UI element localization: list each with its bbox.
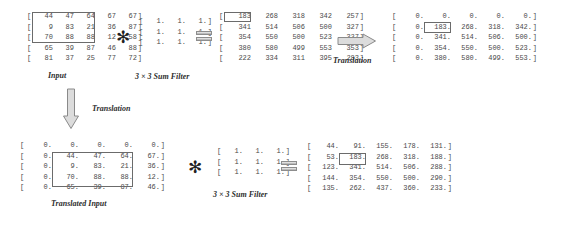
matrix-cell: 506 <box>278 22 305 33</box>
caption-translated-input: Translated Input <box>51 199 107 208</box>
matrix-cell: 550. <box>366 173 393 184</box>
matrix-row: [0.44.47.64.67.] <box>20 151 165 162</box>
matrix-cell: 37 <box>53 53 74 64</box>
matrix-cell: 523. <box>505 43 532 54</box>
bracket-close: ] <box>137 53 142 64</box>
equals-bar-upper-2 <box>281 161 297 165</box>
matrix-cell: 87 <box>74 43 95 54</box>
matrix-cell: 81 <box>32 53 53 64</box>
matrix-cell: 1. <box>243 157 264 168</box>
caption-translation-down: Translation <box>92 104 130 113</box>
bracket-close: ] <box>447 152 452 163</box>
matrix-cell: 341. <box>424 32 451 43</box>
matrix-cell: 262. <box>339 183 366 194</box>
matrix-cell: 318. <box>478 22 505 33</box>
matrix-cell: 1. <box>144 27 165 38</box>
matrix-cell: 183. <box>339 152 366 163</box>
caption-filter-top: 3 × 3 Sum Filter <box>135 72 189 81</box>
bracket-close: ] <box>447 183 452 194</box>
matrix-cell: 0. <box>133 140 160 151</box>
matrix-row: [0.65.39.87.46.] <box>20 182 165 193</box>
matrix-cell: 0. <box>25 161 52 172</box>
matrix-cell: 514. <box>451 32 478 43</box>
matrix-row: [183268318342257] <box>219 11 364 22</box>
matrix-row: [0.354.550.500.523.] <box>392 43 537 54</box>
matrix-cell: 131. <box>420 141 447 152</box>
matrix-cell: 1. <box>222 167 243 178</box>
matrix-cell: 9. <box>52 161 79 172</box>
matrix-cell: 550. <box>451 43 478 54</box>
matrix-cell: 523 <box>305 32 332 43</box>
matrix-cell: 1. <box>165 27 186 38</box>
matrix-row: [0.0.0.0.0.] <box>392 11 537 22</box>
matrix-cell: 44. <box>312 141 339 152</box>
bracket-close: ] <box>160 161 165 172</box>
matrix-row: [1.1.1.] <box>217 167 290 178</box>
matrix-cell: 88. <box>79 172 106 183</box>
matrix-row: [0.9.83.21.36.] <box>20 161 165 172</box>
matrix-cell: 77 <box>95 53 116 64</box>
matrix-cell: 0. <box>451 11 478 22</box>
matrix-cell: 327 <box>332 22 359 33</box>
matrix-cell: 183 <box>224 11 251 22</box>
equals-sign-top <box>196 31 212 43</box>
matrix-row: [0.70.88.88.12.] <box>20 172 165 183</box>
matrix-cell: 341. <box>339 162 366 173</box>
matrix-row: [144.354.550.500.290.] <box>307 173 452 184</box>
matrix-cell: 500 <box>305 22 332 33</box>
matrix-cell: 44 <box>32 11 53 22</box>
caption-filter-bottom: 3 × 3 Sum Filter <box>213 190 267 199</box>
equals-bar-upper <box>196 31 212 35</box>
bracket-close: ] <box>532 22 537 33</box>
matrix-row: [44.91.155.178.131.] <box>307 141 452 152</box>
matrix-cell: 342 <box>305 11 332 22</box>
matrix-cell: 155. <box>366 141 393 152</box>
matrix-row: [8137257772] <box>27 53 142 64</box>
matrix-cell: 0. <box>52 140 79 151</box>
arrow-right-icon <box>337 33 377 49</box>
matrix-cell: 0. <box>478 11 505 22</box>
convolution-operator-top: ✻ <box>116 29 130 46</box>
matrix-cell: 72 <box>116 53 137 64</box>
matrix-cell: 70. <box>52 172 79 183</box>
matrix-cell: 88. <box>106 172 133 183</box>
matrix-cell: 0. <box>25 151 52 162</box>
translated-input-matrix: [0.0.0.0.0.][0.44.47.64.67.][0.9.83.21.3… <box>20 140 165 193</box>
matrix-cell: 500. <box>505 32 532 43</box>
translated-result-matrix: [0.0.0.0.0.][0.183.268.318.342.][0.341.5… <box>392 11 537 64</box>
matrix-cell: 318. <box>393 152 420 163</box>
matrix-row: [1.1.1.] <box>217 146 290 157</box>
caption-translation-right: Translation <box>333 56 371 65</box>
matrix-cell: 83. <box>79 161 106 172</box>
bracket-close: ] <box>532 32 537 43</box>
matrix-cell: 65. <box>52 182 79 193</box>
matrix-row: [0.380.580.499.553.] <box>392 53 537 64</box>
bracket-close: ] <box>359 22 364 33</box>
matrix-cell: 46 <box>95 43 116 54</box>
matrix-cell: 135. <box>312 183 339 194</box>
matrix-cell: 0. <box>25 172 52 183</box>
matrix-cell: 1. <box>222 146 243 157</box>
bracket-close: ] <box>447 141 452 152</box>
matrix-cell: 21. <box>106 161 133 172</box>
matrix-cell: 0. <box>397 22 424 33</box>
matrix-row: [135.262.437.360.233.] <box>307 183 452 194</box>
matrix-cell: 354. <box>339 173 366 184</box>
matrix-cell: 437. <box>366 183 393 194</box>
bracket-close: ] <box>160 172 165 183</box>
matrix-cell: 12 <box>95 32 116 43</box>
matrix-row: [4447646767] <box>27 11 142 22</box>
matrix-cell: 290. <box>420 173 447 184</box>
convolution-operator-bottom: ✻ <box>188 159 202 176</box>
matrix-cell: 268 <box>251 11 278 22</box>
equals-sign-bottom <box>281 161 297 173</box>
matrix-cell: 500 <box>278 32 305 43</box>
matrix-cell: 334 <box>251 53 278 64</box>
equals-bar-lower-2 <box>281 167 297 171</box>
matrix-cell: 341 <box>224 22 251 33</box>
bracket-close: ] <box>532 43 537 54</box>
matrix-cell: 354. <box>424 43 451 54</box>
matrix-cell: 9 <box>32 22 53 33</box>
matrix-cell: 1. <box>186 16 207 27</box>
sum-filter-matrix-bottom: [1.1.1.][1.1.1.][1.1.1.] <box>217 146 290 178</box>
